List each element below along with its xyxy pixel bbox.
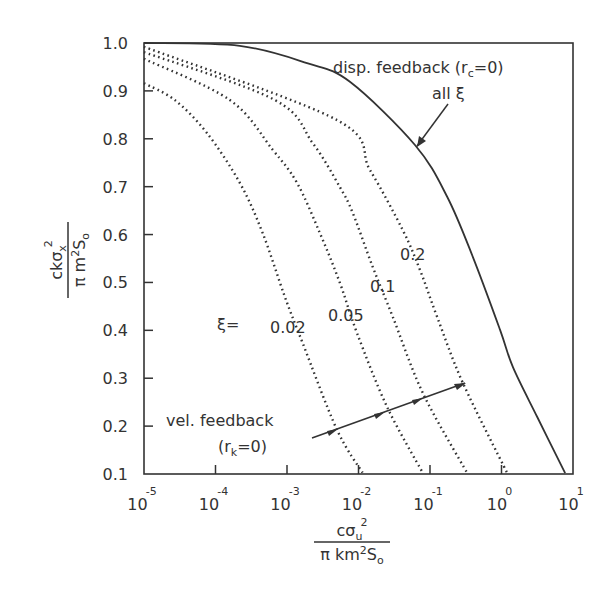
svg-text:disp. feedback (rc=0): disp. feedback (rc=0) [333,58,504,80]
y-tick-label: 0.6 [103,226,128,245]
series-line-1 [144,47,507,473]
disp-feedback-annotation: disp. feedback (rc=0) all ξ [333,58,504,147]
y-tick-label: 0.9 [103,82,128,101]
x-tick-label: 10-3 [270,485,299,514]
svg-text:vel. feedback: vel. feedback [166,411,274,430]
all-xi-label: all ξ [432,84,465,103]
y-tick-label: 0.8 [103,130,128,149]
svg-text:0.05: 0.05 [328,306,364,325]
chart: 1.00.90.80.70.60.50.40.30.20.1 10-510-41… [0,0,608,602]
series-line-0 [144,43,565,473]
arrow-head-icon [412,398,423,405]
arrow-head-icon [327,429,338,436]
svg-text:cσu2: cσu2 [337,516,368,543]
y-tick-label: 0.2 [103,417,128,436]
y-tick-label: 1.0 [103,34,128,53]
y-tick-label: 0.1 [103,465,128,484]
svg-text:π m2So: π m2So [69,233,92,287]
y-axis-label: ckσx2 π m2So [42,222,92,298]
svg-text:0.2: 0.2 [400,245,425,264]
y-tick-label: 0.4 [103,321,128,340]
x-axis-label: cσu2 π km2So [314,516,390,567]
data-series [144,43,565,473]
svg-text:0.1: 0.1 [370,277,395,296]
x-tick-label: 101 [558,485,583,514]
xi-labels: ξ= 0.02 0.05 0.1 0.2 [217,245,425,337]
y-tick-label: 0.3 [103,369,128,388]
svg-text:ξ=: ξ= [217,315,239,334]
x-tick-label: 10-4 [199,485,228,514]
x-tick-label: 10-5 [127,485,156,514]
x-tick-label: 100 [487,485,512,514]
vel-feedback-annotation: vel. feedback (rk=0) [166,383,466,459]
svg-text:ckσx2: ckσx2 [42,240,69,280]
y-tick-label: 0.7 [103,178,128,197]
x-axis-ticks: 10-510-410-310-210-1100101 [127,465,583,514]
svg-text:0.02: 0.02 [270,318,306,337]
arrow-head-icon [417,136,426,147]
arrow-head-icon [374,412,385,419]
x-tick-label: 10-1 [413,485,442,514]
y-axis-ticks: 1.00.90.80.70.60.50.40.30.20.1 [103,34,153,484]
plot-frame [144,43,573,474]
x-tick-label: 10-2 [342,485,371,514]
svg-text:π km2So: π km2So [320,544,384,567]
y-tick-label: 0.5 [103,273,128,292]
svg-text:(rk=0): (rk=0) [218,437,267,459]
